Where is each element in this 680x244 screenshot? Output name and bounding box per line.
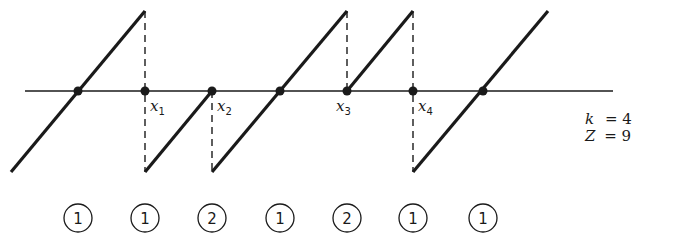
count-circle: 1 — [399, 204, 427, 232]
parameter-block: k = 4 Z = 9 — [584, 110, 632, 145]
svg-text:1: 1 — [275, 210, 285, 228]
crossing-dot — [343, 87, 352, 96]
crossing-dot — [276, 87, 285, 96]
sawtooth-diagram: x1x2x3x4 k = 4 Z = 9 1121211 — [0, 0, 680, 244]
count-circle: 1 — [266, 204, 294, 232]
point-label-x3: x3 — [336, 97, 351, 117]
param-z: Z = 9 — [584, 127, 631, 145]
crossing-dot — [208, 87, 217, 96]
svg-text:1: 1 — [73, 210, 83, 228]
crossing-dot — [74, 87, 83, 96]
svg-text:1: 1 — [408, 210, 418, 228]
svg-text:2: 2 — [342, 210, 352, 228]
svg-text:1: 1 — [140, 210, 150, 228]
count-circle: 1 — [64, 204, 92, 232]
point-label-x4: x4 — [418, 97, 433, 117]
sawtooth-segment — [347, 11, 413, 91]
svg-text:2: 2 — [207, 210, 217, 228]
count-circle: 1 — [469, 204, 497, 232]
interval-count-circles: 1121211 — [64, 204, 497, 232]
svg-text:1: 1 — [478, 210, 488, 228]
point-label-x1: x1 — [150, 97, 165, 117]
crossing-dot — [479, 87, 488, 96]
crossing-dot — [409, 87, 418, 96]
crossing-dot — [141, 87, 150, 96]
count-circle: 2 — [198, 204, 226, 232]
count-circle: 1 — [131, 204, 159, 232]
param-k: k = 4 — [585, 110, 632, 128]
point-label-x2: x2 — [217, 97, 232, 117]
count-circle: 2 — [333, 204, 361, 232]
